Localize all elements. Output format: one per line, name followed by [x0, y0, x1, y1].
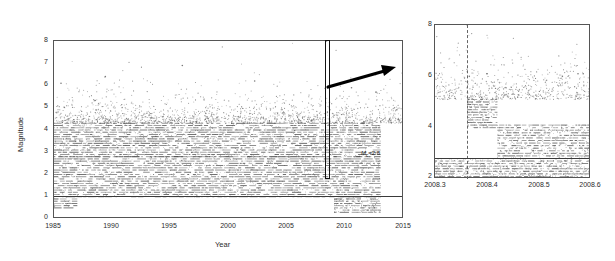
- right-xtick-20086: 2008.6: [575, 181, 605, 189]
- mc-completeness-line: [54, 196, 402, 197]
- left-ytick-2: 2: [30, 169, 48, 177]
- left-xtick-1985: 1985: [38, 222, 68, 230]
- right-zoom-panel: 8 6 4 2 2008.3 2008.4 2008.5 2008.6: [410, 0, 615, 261]
- figure-root: Magnitude 8 7 6 5 4 3 2 1 0 Mc=2.8: [0, 0, 615, 261]
- left-scatter-svg: [54, 41, 402, 217]
- left-ytick-7: 7: [30, 58, 48, 66]
- mc-value: =2.8: [368, 150, 380, 156]
- left-xtick-2010: 2010: [329, 222, 359, 230]
- right-xtick-20085: 2008.5: [524, 181, 554, 189]
- left-ytick-1: 1: [30, 191, 48, 199]
- left-catalog-panel: Magnitude 8 7 6 5 4 3 2 1 0 Mc=2.8: [0, 0, 410, 261]
- left-ytick-5: 5: [30, 102, 48, 110]
- left-xtick-2005: 2005: [271, 222, 301, 230]
- right-ytick-8: 8: [418, 20, 432, 28]
- right-xtick-20084: 2008.4: [472, 181, 502, 189]
- left-xtick-1990: 1990: [96, 222, 126, 230]
- right-plot-canvas: [435, 25, 589, 177]
- left-xtick-2000: 2000: [213, 222, 243, 230]
- right-ytick-6: 6: [418, 71, 432, 79]
- left-ytick-3: 3: [30, 147, 48, 155]
- left-ytick-6: 6: [30, 80, 48, 88]
- left-plot-frame: [53, 40, 403, 218]
- right-mc-line: [435, 158, 589, 159]
- right-ytick-2: 2: [418, 172, 432, 180]
- left-xtick-1995: 1995: [154, 222, 184, 230]
- left-panel-xlabel: Year: [215, 240, 230, 249]
- left-panel-ylabel: Magnitude: [16, 117, 25, 152]
- mainshock-dashed-line: [467, 25, 468, 179]
- left-ytick-4: 4: [30, 125, 48, 133]
- right-xtick-20083: 2008.3: [420, 181, 450, 189]
- right-plot-frame: [434, 24, 590, 178]
- right-scatter-svg: [435, 25, 589, 177]
- zoom-selection-box[interactable]: [325, 40, 330, 179]
- mc-annotation-label: Mc=2.8: [361, 150, 380, 158]
- left-ytick-8: 8: [30, 36, 48, 44]
- left-ytick-0: 0: [30, 213, 48, 221]
- left-plot-canvas: [54, 41, 402, 217]
- right-ytick-4: 4: [418, 122, 432, 130]
